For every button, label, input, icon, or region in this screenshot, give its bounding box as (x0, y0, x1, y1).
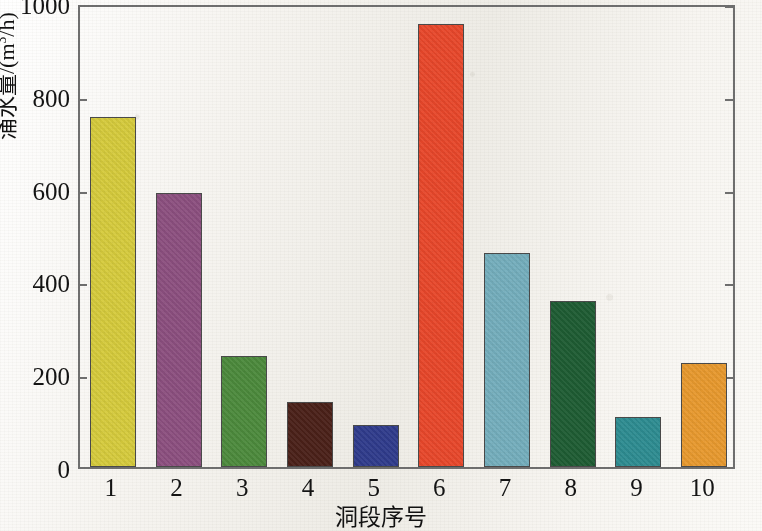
bar (484, 253, 530, 467)
y-axis-tick (79, 377, 87, 379)
chart-page: 涌水量/(m3/h) 02004006008001000 12345678910… (0, 0, 762, 531)
y-axis-tick (79, 192, 87, 194)
y-axis-tick-right (725, 6, 734, 8)
y-axis-tick-label: 0 (0, 456, 80, 484)
y-axis-tick-right (725, 284, 734, 286)
y-axis-tick-label: 800 (0, 85, 80, 113)
y-axis-title: 涌水量/(m3/h) (0, 0, 20, 140)
y-axis-tick (79, 284, 87, 286)
y-axis-tick-label: 400 (0, 270, 80, 298)
x-axis-title: 洞段序号 (0, 498, 762, 531)
y-axis-tick-label: 200 (0, 363, 80, 391)
bar (287, 402, 333, 467)
bar (550, 301, 596, 467)
bar (90, 117, 136, 467)
y-axis-title-exponent: 3 (0, 37, 9, 44)
bar (156, 193, 202, 467)
plot-area (78, 5, 735, 469)
y-axis-tick-label: 600 (0, 178, 80, 206)
y-axis-tick-right (725, 192, 734, 194)
y-axis-tick (79, 99, 87, 101)
y-axis-tick-right (725, 99, 734, 101)
bar (221, 356, 267, 467)
y-axis-tick-label: 1000 (0, 0, 80, 20)
bar (418, 24, 464, 467)
bar (353, 425, 399, 467)
bar (615, 417, 661, 467)
bar (681, 363, 727, 467)
